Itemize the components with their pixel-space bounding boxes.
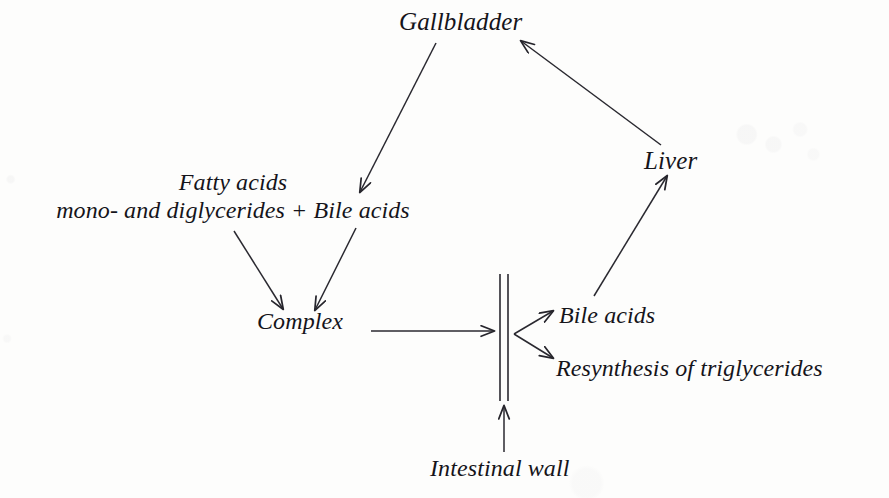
edge-bile-acids-to-liver bbox=[594, 176, 667, 296]
edge-wall-to-bile-acids bbox=[514, 311, 553, 334]
intestinal-wall-barrier bbox=[500, 274, 508, 401]
node-label-monoglycerides-bile-acids: mono- and diglycerides + Bile acids bbox=[24, 197, 442, 224]
node-label-intestinal-wall: Intestinal wall bbox=[430, 455, 570, 482]
fat-digestion-diagram: Gallbladder Liver Fatty acids mono- and … bbox=[0, 0, 889, 498]
edge-wall-to-resynthesis bbox=[514, 334, 553, 358]
diagram-edges bbox=[0, 0, 889, 498]
node-label-liver: Liver bbox=[644, 147, 697, 175]
edge-liver-to-gallbladder bbox=[521, 41, 661, 145]
node-label-complex: Complex bbox=[257, 308, 343, 335]
node-label-fatty-acids: Fatty acids bbox=[24, 169, 442, 196]
node-label-substrates: Fatty acids mono- and diglycerides + Bil… bbox=[24, 169, 442, 224]
node-label-resynthesis-of-triglycerides: Resynthesis of triglycerides bbox=[556, 355, 823, 382]
node-label-bile-acids: Bile acids bbox=[559, 302, 655, 329]
node-label-gallbladder: Gallbladder bbox=[399, 8, 522, 36]
edge-bile-acids-to-complex bbox=[315, 228, 356, 310]
edge-fatty-acids-to-complex bbox=[234, 231, 283, 309]
